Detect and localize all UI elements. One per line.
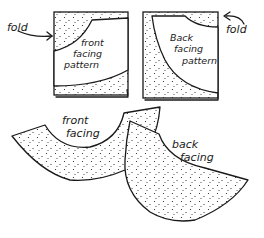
- back-facing-label-2: facing: [180, 151, 214, 164]
- front-pattern-label-1: front: [81, 37, 105, 48]
- front-facing-label-2: facing: [66, 127, 100, 140]
- fold-label-left: fold: [7, 21, 29, 34]
- front-pattern-label-3: pattern: [63, 59, 99, 70]
- front-pattern-label-2: facing: [73, 48, 102, 59]
- front-facing-label-1: front: [62, 114, 89, 127]
- back-pattern-label-1: Back: [170, 32, 194, 43]
- diagram-canvas: fold front facing pattern fold Back faci…: [0, 0, 264, 238]
- back-pattern-label-2: facing: [174, 43, 203, 54]
- back-pattern-label-3: pattern: [181, 55, 217, 66]
- back-facing-piece: [125, 121, 248, 221]
- back-facing-label-1: back: [172, 138, 199, 151]
- fold-label-right: fold: [226, 23, 248, 36]
